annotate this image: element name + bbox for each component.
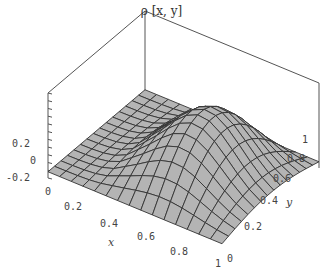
x-tick-1: 1 [215, 258, 221, 269]
y-tick-0.6: 0.6 [273, 173, 291, 184]
y-axis-label: y [286, 196, 292, 209]
x-tick-0.2: 0.2 [64, 201, 82, 212]
y-tick-0.4: 0.4 [260, 195, 278, 206]
x-axis-label: x [108, 236, 114, 249]
z-tick-0: 0 [30, 155, 36, 166]
y-tick-1: 1 [302, 134, 308, 145]
y-tick-0.2: 0.2 [244, 221, 262, 232]
x-tick-0.8: 0.8 [170, 246, 188, 257]
surface-plot [0, 0, 323, 280]
y-tick-0.8: 0.8 [287, 153, 305, 164]
z-tick-neg0.2: -0.2 [6, 172, 30, 183]
z-tick-0.2: 0.2 [12, 138, 30, 149]
x-tick-0.4: 0.4 [100, 218, 118, 229]
plot-title: ρ [x, y] [0, 4, 323, 18]
x-tick-0.6: 0.6 [137, 231, 155, 242]
x-tick-0: 0 [45, 186, 51, 197]
y-tick-0: 0 [227, 253, 233, 264]
